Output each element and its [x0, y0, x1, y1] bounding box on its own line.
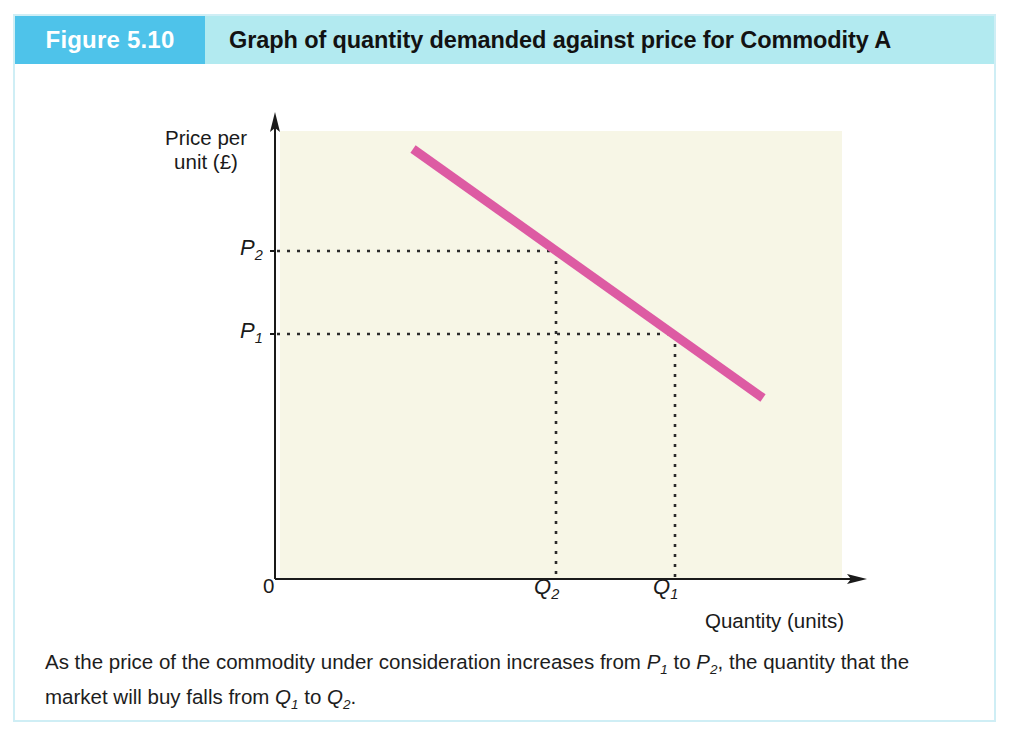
plot-background — [280, 131, 842, 579]
y-axis-label-line1: Price per — [165, 126, 247, 149]
y-tick-label-p2: P2 — [240, 235, 263, 265]
caption-text-part1: As the price of the commodity under cons… — [45, 650, 647, 673]
figure-number-badge: Figure 5.10 — [15, 16, 205, 64]
figure-caption: As the price of the commodity under cons… — [45, 646, 965, 715]
x-tick-label-q1-subscript: 1 — [670, 586, 678, 602]
y-tick-label-p1-subscript: 1 — [255, 330, 263, 346]
caption-symbol-q2: Q — [327, 685, 343, 708]
x-tick-label-q2: Q2 — [534, 574, 559, 604]
x-tick-label-q1-letter: Q — [653, 574, 670, 599]
y-axis-label: Price per unit (£) — [147, 126, 265, 174]
figure-title: Graph of quantity demanded against price… — [205, 16, 994, 64]
caption-symbol-p2: P — [696, 650, 710, 673]
y-axis-label-line2: unit (£) — [174, 150, 238, 173]
caption-symbol-p2-subscript: 2 — [710, 662, 718, 677]
chart-plot-area: Price per unit (£) Quantity (units) 0 P2… — [15, 64, 994, 624]
y-tick-label-p2-subscript: 2 — [255, 247, 263, 263]
x-axis-label: Quantity (units) — [705, 609, 844, 633]
caption-text-mid1: to — [668, 650, 697, 673]
caption-symbol-p1: P — [647, 650, 661, 673]
caption-text-mid3: to — [299, 685, 328, 708]
origin-label: 0 — [263, 574, 274, 598]
x-tick-label-q2-letter: Q — [534, 574, 551, 599]
caption-symbol-q2-subscript: 2 — [343, 697, 351, 712]
caption-symbol-p1-subscript: 1 — [660, 662, 668, 677]
x-tick-label-q1: Q1 — [653, 574, 678, 604]
y-tick-label-p1: P1 — [240, 318, 263, 348]
caption-text-end: . — [351, 685, 357, 708]
figure-header: Figure 5.10 Graph of quantity demanded a… — [15, 16, 994, 64]
caption-symbol-q1: Q — [275, 685, 291, 708]
x-tick-label-q2-subscript: 2 — [551, 586, 559, 602]
y-tick-label-p1-letter: P — [240, 318, 255, 343]
figure-frame: Figure 5.10 Graph of quantity demanded a… — [13, 14, 996, 722]
y-tick-label-p2-letter: P — [240, 235, 255, 260]
caption-symbol-q1-subscript: 1 — [291, 697, 299, 712]
